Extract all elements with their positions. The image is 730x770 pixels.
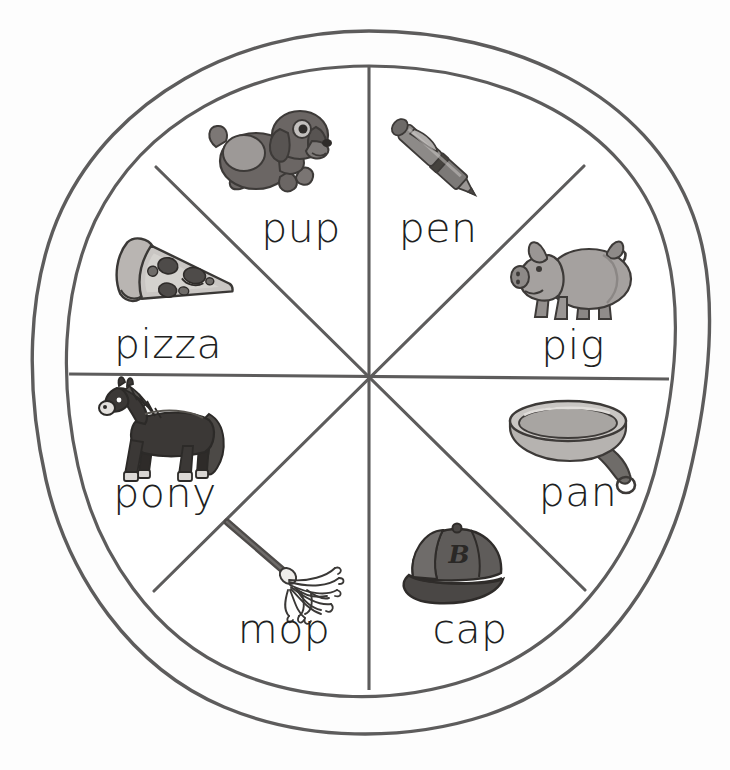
slice-label-pig: pig xyxy=(541,325,605,366)
slice-label-cap: cap xyxy=(432,609,507,650)
slice-label-pony: pony xyxy=(113,473,216,514)
slice-label-pen: pen xyxy=(399,208,478,249)
slice-label-pan: pan xyxy=(539,472,618,513)
worksheet-page: B xyxy=(0,0,730,770)
cap-logo-letter: B xyxy=(447,540,469,569)
slice-label-pizza: pizza xyxy=(114,324,222,365)
slice-label-pup: pup xyxy=(261,208,341,249)
inner-pizza-circle xyxy=(66,66,675,697)
slice-label-mop: mop xyxy=(238,609,331,650)
pizza-wheel-graphic: B xyxy=(0,0,730,770)
